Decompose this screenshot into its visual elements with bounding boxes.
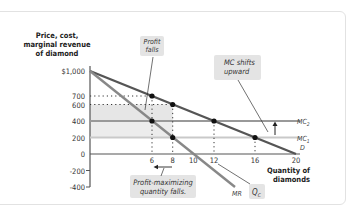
pointer-line bbox=[161, 168, 164, 176]
svg-text:$1,000: $1,000 bbox=[61, 67, 85, 76]
x-tick-labels: 6 8 10 12 16 20 bbox=[150, 156, 300, 165]
svg-text:MC shifts: MC shifts bbox=[224, 58, 255, 67]
svg-text:16: 16 bbox=[251, 156, 260, 165]
svg-text:D: D bbox=[300, 144, 305, 152]
pointer-line bbox=[238, 80, 268, 132]
chart: $1,000 700 600 400 200 0 -200 -400 6 8 1… bbox=[0, 0, 355, 216]
profit-falls-annotation: Profit falls bbox=[144, 38, 161, 54]
svg-text:400: 400 bbox=[72, 117, 85, 126]
svg-text:quantity falls.: quantity falls. bbox=[140, 187, 186, 196]
svg-text:MR: MR bbox=[232, 190, 242, 198]
svg-text:marginal revenue: marginal revenue bbox=[23, 40, 91, 49]
svg-text:6: 6 bbox=[150, 156, 154, 165]
svg-text:MC2: MC2 bbox=[297, 118, 310, 127]
quantity-falls-annotation: Profit-maximizing quantity falls. bbox=[133, 178, 193, 196]
arrow-left-icon bbox=[154, 165, 159, 169]
svg-text:10: 10 bbox=[189, 156, 198, 165]
svg-text:of diamond: of diamond bbox=[36, 49, 79, 58]
svg-text:Price, cost,: Price, cost, bbox=[36, 31, 79, 40]
svg-text:Quantity of: Quantity of bbox=[267, 166, 310, 175]
profit-area-top bbox=[90, 105, 173, 122]
svg-text:Profit-maximizing: Profit-maximizing bbox=[133, 178, 193, 187]
svg-text:0: 0 bbox=[81, 150, 85, 159]
svg-text:diamonds: diamonds bbox=[273, 175, 310, 184]
svg-text:falls: falls bbox=[146, 46, 160, 54]
y-tick-labels: $1,000 700 600 400 200 0 -200 -400 bbox=[61, 67, 85, 192]
pointer-line bbox=[145, 57, 153, 110]
profit-area-bottom bbox=[90, 121, 173, 138]
svg-text:MC1: MC1 bbox=[297, 135, 310, 144]
y-axis-title: Price, cost, marginal revenue of diamond bbox=[23, 31, 91, 58]
svg-text:Profit: Profit bbox=[144, 38, 161, 46]
svg-text:upward: upward bbox=[224, 67, 250, 76]
svg-text:600: 600 bbox=[72, 101, 85, 110]
svg-text:200: 200 bbox=[72, 134, 85, 143]
pointer-line bbox=[218, 164, 250, 184]
svg-text:8: 8 bbox=[171, 156, 175, 165]
svg-text:20: 20 bbox=[292, 156, 301, 165]
x-axis-title: Quantity of diamonds bbox=[267, 166, 310, 184]
svg-text:-400: -400 bbox=[70, 183, 85, 192]
svg-text:12: 12 bbox=[210, 156, 219, 165]
arrow-up-icon bbox=[273, 122, 278, 127]
svg-text:-200: -200 bbox=[70, 167, 85, 176]
